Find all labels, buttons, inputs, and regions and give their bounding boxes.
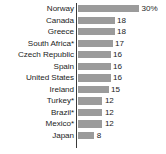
category-label: Japan (52, 130, 74, 142)
bar-row: Japan8 (0, 130, 166, 142)
category-label: South Africa* (28, 38, 74, 50)
bar-and-value: 16 (78, 51, 122, 58)
category-label: United States (26, 72, 74, 84)
bar-chart: Norway30%Canada18Greece18South Africa*17… (0, 0, 166, 154)
bar-row: South Africa*17 (0, 38, 166, 50)
bar-row-list: Norway30%Canada18Greece18South Africa*17… (0, 3, 166, 142)
category-label: Greece (48, 26, 74, 38)
bar-and-value: 12 (78, 120, 114, 127)
value-label: 12 (105, 120, 114, 127)
bar-and-value: 15 (78, 86, 120, 93)
category-label: Brazil* (51, 107, 74, 119)
bar (78, 5, 139, 12)
bar-row: Czech Republic16 (0, 49, 166, 61)
bar (78, 120, 102, 127)
bar (78, 63, 111, 70)
category-label: Mexico* (46, 118, 74, 130)
value-label: 16 (113, 74, 122, 81)
bar (78, 74, 111, 81)
value-label: 12 (105, 109, 114, 116)
category-label: Spain (54, 61, 74, 73)
bar (78, 28, 115, 35)
bar (78, 132, 94, 139)
value-label: 18 (117, 28, 126, 35)
value-label: 8 (97, 132, 101, 139)
value-label: 17 (115, 40, 124, 47)
bar-and-value: 12 (78, 109, 114, 116)
bar-row: Canada18 (0, 15, 166, 27)
bar-row: Greece18 (0, 26, 166, 38)
bar-row: Spain16 (0, 61, 166, 73)
value-label: 12 (105, 97, 114, 104)
bar-row: Turkey*12 (0, 95, 166, 107)
value-label: 15 (111, 86, 120, 93)
value-label: 30% (142, 5, 158, 12)
category-label: Ireland (50, 84, 74, 96)
bar-row: Norway30% (0, 3, 166, 15)
category-label: Turkey* (47, 95, 74, 107)
bar-row: United States16 (0, 72, 166, 84)
bar-row: Mexico*12 (0, 118, 166, 130)
plot-area: Norway30%Canada18Greece18South Africa*17… (0, 0, 166, 154)
value-label: 16 (113, 51, 122, 58)
bar (78, 51, 111, 58)
bar (78, 17, 115, 24)
bar-row: Ireland15 (0, 84, 166, 96)
bar (78, 86, 109, 93)
bar (78, 97, 102, 104)
bar-and-value: 18 (78, 17, 126, 24)
value-label: 16 (113, 63, 122, 70)
bar-and-value: 18 (78, 28, 126, 35)
bar-and-value: 16 (78, 63, 122, 70)
category-label: Canada (46, 15, 74, 27)
bar-row: Brazil*12 (0, 107, 166, 119)
bar (78, 109, 102, 116)
category-label: Czech Republic (18, 49, 74, 61)
bar (78, 40, 113, 47)
bar-and-value: 8 (78, 132, 101, 139)
bar-and-value: 30% (78, 5, 158, 12)
bar-and-value: 12 (78, 97, 114, 104)
value-label: 18 (117, 17, 126, 24)
category-label: Norway (47, 3, 74, 15)
bar-and-value: 17 (78, 40, 124, 47)
bar-and-value: 16 (78, 74, 122, 81)
